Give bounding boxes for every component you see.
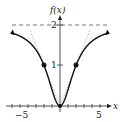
tick-label-1: 1 xyxy=(51,60,57,70)
inflection-point-left xyxy=(42,63,47,68)
x-axis-label: x xyxy=(113,101,118,111)
left-arrow-icon xyxy=(9,29,15,36)
tick-label-neg5: −5 xyxy=(15,110,29,120)
y-axis-label: f(x) xyxy=(49,5,66,15)
y-axis-arrow-icon xyxy=(58,15,62,20)
inflection-point-right xyxy=(74,63,79,68)
plot: f(x) x −5 5 1 2 xyxy=(0,0,120,122)
tick-label-5: 5 xyxy=(96,110,102,120)
right-arrow-icon xyxy=(105,29,111,36)
origin-point xyxy=(58,104,62,108)
chart: f(x) x −5 5 1 2 xyxy=(0,0,120,122)
tick-label-2: 2 xyxy=(51,20,57,30)
